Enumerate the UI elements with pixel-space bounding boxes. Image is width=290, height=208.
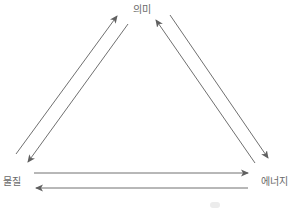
node-label-meaning: 의미: [133, 1, 151, 16]
arrow-meaning-to-energy: [170, 15, 268, 158]
faint-mark: [210, 202, 220, 208]
node-label-energy: 에너지: [261, 173, 288, 188]
arrow-meaning-to-matter: [28, 24, 128, 162]
cycle-diagram: [0, 0, 290, 208]
arrow-matter-to-meaning: [16, 16, 117, 154]
node-label-matter: 물질: [3, 173, 21, 188]
arrow-energy-to-meaning: [156, 20, 255, 163]
